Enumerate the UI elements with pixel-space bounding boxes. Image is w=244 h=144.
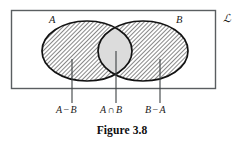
- universal-set-symbol: ℒ: [223, 13, 231, 24]
- venn-diagram-figure: ℒ A B A−B A∩B B−A Figure 3.8: [0, 0, 244, 144]
- region-b-minus-a-right: A: [160, 104, 166, 115]
- region-label-b-minus-a: B−A: [145, 105, 166, 115]
- figure-caption: Figure 3.8: [0, 124, 244, 136]
- region-b-minus-a-operator: −: [151, 104, 159, 115]
- venn-diagram-canvas: [0, 0, 244, 144]
- region-a-intersect-b-right: B: [116, 104, 122, 115]
- region-a-minus-b-right: B: [71, 104, 77, 115]
- set-b-label: B: [176, 15, 183, 26]
- region-label-a-intersect-b: A∩B: [100, 105, 122, 115]
- region-a-intersect-b-operator: ∩: [106, 104, 116, 115]
- set-a-label: A: [49, 15, 56, 26]
- region-a-minus-b-operator: −: [62, 104, 70, 115]
- region-label-a-minus-b: A−B: [56, 105, 77, 115]
